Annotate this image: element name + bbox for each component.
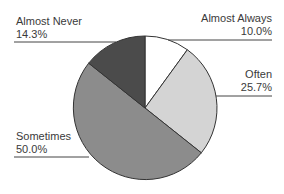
label-almost-always: Almost Always 10.0% [201,12,272,38]
label-sometimes-name: Sometimes [16,130,71,143]
label-sometimes: Sometimes 50.0% [16,130,71,156]
label-often-name: Often [241,68,272,81]
label-often: Often 25.7% [241,68,272,94]
label-almost-never-pct: 14.3% [16,28,82,41]
label-sometimes-pct: 50.0% [16,143,71,156]
label-almost-always-name: Almost Always [201,12,272,25]
label-almost-always-pct: 10.0% [201,25,272,38]
pie-slices [73,36,217,180]
label-almost-never-name: Almost Never [16,15,82,28]
label-almost-never: Almost Never 14.3% [16,15,82,41]
label-often-pct: 25.7% [241,81,272,94]
